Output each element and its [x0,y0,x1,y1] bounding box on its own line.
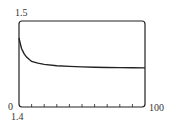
x-min-label: 0 [8,102,13,112]
x-max-label: 100 [149,103,164,113]
data-line [19,38,145,68]
plot-area [0,0,170,124]
y-min-label: 1.4 [11,112,24,122]
plot-frame [19,21,145,107]
chart: 1.5 1.4 0 100 [0,0,170,124]
y-max-label: 1.5 [15,8,28,18]
